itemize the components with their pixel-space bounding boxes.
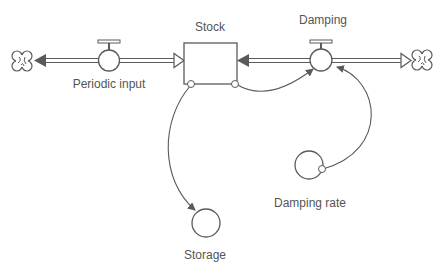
label-damping: Damping (299, 13, 347, 27)
connector-damping-rate-to-damping[interactable] (323, 67, 371, 169)
cloud-icon (12, 51, 32, 71)
connector-stock-to-damping[interactable] (232, 69, 314, 91)
diagram-canvas: Periodic input Stock Damping (0, 0, 443, 274)
valve-icon (98, 40, 120, 71)
label-damping-rate: Damping rate (274, 196, 346, 210)
stock-box[interactable] (184, 43, 237, 84)
cloud-icon (412, 50, 432, 70)
converter-storage[interactable] (192, 209, 220, 237)
arrowhead-left-icon (34, 54, 46, 67)
flow-damping[interactable] (237, 40, 411, 71)
arrowhead-right-icon (174, 54, 184, 68)
label-stock: Stock (195, 20, 226, 34)
flow-periodic-input[interactable] (34, 40, 184, 71)
connector-stock-to-storage[interactable] (168, 81, 195, 211)
converter-damping-rate[interactable] (295, 151, 326, 179)
label-periodic-input: Periodic input (73, 77, 146, 91)
arrowhead-right-icon (401, 54, 411, 68)
label-storage: Storage (184, 248, 226, 262)
arrowhead-left-icon (237, 54, 249, 67)
valve-icon (310, 40, 332, 71)
